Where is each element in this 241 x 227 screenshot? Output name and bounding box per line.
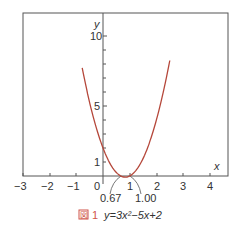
y-tick-label: 5 xyxy=(94,100,100,112)
x-tick-label: 4 xyxy=(207,180,213,192)
x-tick-label: 0 xyxy=(94,180,100,192)
root-label-right: 1.00 xyxy=(135,192,156,204)
x-axis-label: x xyxy=(213,160,220,172)
root-label-left: 0.67 xyxy=(100,192,121,204)
figure-caption: 図 1 y=3x²−5x+2 xyxy=(79,209,162,221)
x-tick-label: −3 xyxy=(14,180,27,192)
x-tick-label: 2 xyxy=(154,180,160,192)
x-tick-label: 1 xyxy=(127,180,133,192)
y-tick-label: 1 xyxy=(94,156,100,168)
x-tick-label: −2 xyxy=(41,180,54,192)
figure-number: 1 xyxy=(92,209,98,221)
y-tick-label: 10 xyxy=(90,30,102,42)
y-ticks xyxy=(103,36,107,162)
plot-frame xyxy=(23,13,228,176)
chart: y x 10 5 1 −3 −2 −1 0 1 2 3 4 0.67 1.00 … xyxy=(0,0,241,227)
figure-equation: y=3x²−5x+2 xyxy=(103,209,162,221)
x-tick-label: 3 xyxy=(180,180,186,192)
y-axis-label: y xyxy=(93,18,101,30)
figure-mark: 図 xyxy=(80,211,88,220)
x-tick-label: −1 xyxy=(67,180,80,192)
